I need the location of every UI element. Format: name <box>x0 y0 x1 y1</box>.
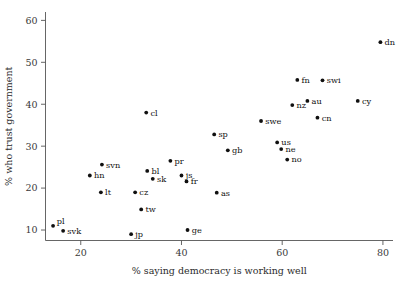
data-point-label: cl <box>150 108 158 118</box>
data-point: lt <box>99 187 112 197</box>
data-point-marker <box>226 148 230 152</box>
data-point-marker <box>185 179 189 183</box>
data-point-marker <box>321 78 325 82</box>
scatter-plot-figure: 20406080102030405060% saying democracy i… <box>0 0 403 285</box>
data-point-label: cy <box>362 96 372 106</box>
data-point: cy <box>356 96 372 106</box>
y-tick-label: 40 <box>25 99 37 110</box>
data-point-label: tw <box>145 204 155 214</box>
data-point-label: ge <box>192 225 202 235</box>
x-tick-label: 80 <box>377 247 389 258</box>
data-point-label: gb <box>232 145 242 155</box>
data-point-label: sk <box>157 174 167 184</box>
data-point: hn <box>88 170 105 180</box>
data-point-marker <box>51 224 55 228</box>
data-point: swi <box>321 75 341 85</box>
data-point-label: svn <box>106 160 121 170</box>
data-point-label: cn <box>322 113 333 123</box>
data-point-marker <box>186 228 190 232</box>
data-point-label: svk <box>67 226 82 236</box>
data-point-marker <box>139 208 143 212</box>
data-point-marker <box>144 111 148 115</box>
data-point: ge <box>186 225 202 235</box>
x-tick-label: 60 <box>276 247 288 258</box>
y-tick-label: 20 <box>25 182 37 193</box>
data-point-marker <box>295 78 299 82</box>
data-point-marker <box>88 174 92 178</box>
data-point-label: pl <box>57 216 65 226</box>
data-point-label: swe <box>265 116 281 126</box>
data-point: no <box>285 154 301 164</box>
data-point-label: cz <box>139 187 149 197</box>
data-point-marker <box>285 158 289 162</box>
data-point: pr <box>168 156 183 166</box>
data-point-marker <box>168 159 172 163</box>
data-point-marker <box>215 191 219 195</box>
y-axis-title: % who trust government <box>3 66 14 185</box>
data-point-label: pr <box>175 156 184 166</box>
data-point: svk <box>61 226 82 236</box>
x-axis-title: % saying democracy is working well <box>132 265 307 276</box>
data-point-marker <box>290 103 294 107</box>
plot-canvas: 20406080102030405060% saying democracy i… <box>0 0 403 285</box>
data-point: swe <box>259 116 281 126</box>
y-tick-label: 30 <box>25 141 37 152</box>
data-point-marker <box>129 232 133 236</box>
data-point-marker <box>151 177 155 181</box>
data-point-marker <box>316 116 320 120</box>
data-point: cz <box>133 187 149 197</box>
data-point-label: lt <box>105 187 112 197</box>
data-point: nz <box>290 100 306 110</box>
data-point-label: as <box>221 188 230 198</box>
data-point-marker <box>180 174 184 178</box>
data-point-marker <box>145 169 149 173</box>
data-point-marker <box>133 190 137 194</box>
data-point: dn <box>379 37 396 47</box>
data-point: fn <box>295 75 310 85</box>
data-point-marker <box>356 99 360 103</box>
data-point-label: sp <box>218 129 227 139</box>
data-point-label: nz <box>296 100 306 110</box>
data-point: cn <box>316 113 333 123</box>
data-point-label: au <box>312 96 322 106</box>
data-point: gb <box>226 145 243 155</box>
data-point-label: dn <box>385 37 396 47</box>
data-point: as <box>215 188 230 198</box>
data-point-marker <box>275 140 279 144</box>
data-point: cl <box>144 108 158 118</box>
data-point-label: jp <box>134 229 143 239</box>
y-tick-label: 10 <box>25 224 37 235</box>
data-point-marker <box>61 229 65 233</box>
data-point-label: no <box>291 154 301 164</box>
data-point-label: fr <box>191 176 198 186</box>
data-point: jp <box>129 229 143 239</box>
data-point-marker <box>212 133 216 137</box>
data-point-marker <box>99 190 103 194</box>
data-point-marker <box>305 99 309 103</box>
data-point-marker <box>279 147 283 151</box>
data-point: au <box>305 96 321 106</box>
data-point: svn <box>100 160 121 170</box>
y-tick-label: 60 <box>25 15 37 26</box>
data-point-marker <box>379 40 383 44</box>
y-tick-label: 50 <box>25 57 37 68</box>
data-point: sp <box>212 129 228 139</box>
x-tick-label: 40 <box>175 247 187 258</box>
x-tick-label: 20 <box>75 247 87 258</box>
data-point-label: ne <box>285 144 295 154</box>
data-point-marker <box>100 163 104 167</box>
data-point-label: fn <box>302 75 311 85</box>
data-point-label: swi <box>327 75 341 85</box>
data-point: pl <box>51 216 65 228</box>
data-point: tw <box>139 204 155 214</box>
data-point-label: hn <box>94 170 105 180</box>
data-point-marker <box>259 119 263 123</box>
